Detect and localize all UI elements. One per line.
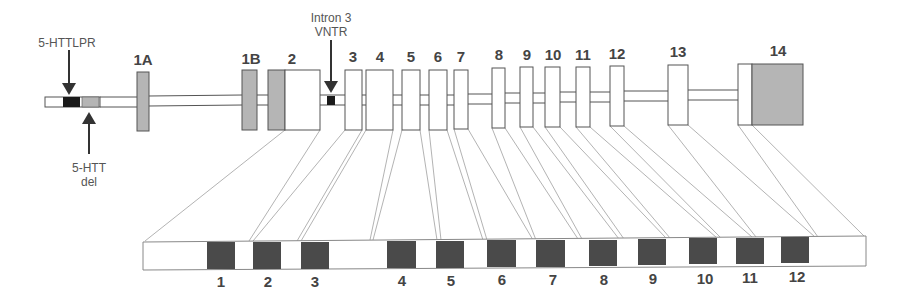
svg-text:9: 9 — [649, 270, 657, 287]
connector-lines — [145, 125, 864, 241]
svg-text:4: 4 — [398, 272, 407, 289]
svg-text:1B: 1B — [241, 50, 260, 67]
arrow-down-icon — [62, 83, 76, 95]
svg-text:1: 1 — [217, 273, 225, 290]
svg-text:10: 10 — [545, 46, 562, 63]
svg-text:5: 5 — [407, 48, 415, 65]
cds-block-9 — [638, 239, 666, 265]
cds-block-12 — [781, 237, 809, 263]
arrow-up-icon — [82, 112, 96, 124]
cds-block-3 — [301, 242, 329, 269]
svg-text:10: 10 — [697, 270, 714, 287]
exon-14-utr — [752, 64, 803, 125]
exon-7 — [454, 70, 468, 129]
svg-text:6: 6 — [434, 48, 442, 65]
svg-text:12: 12 — [789, 268, 806, 285]
svg-text:8: 8 — [495, 46, 503, 63]
exon-labels: 1A 1B 2 3 4 5 6 7 8 9 10 11 12 13 14 — [133, 42, 787, 68]
5-httlpr-label: 5-HTTLPR — [38, 36, 96, 50]
cds-block-7 — [536, 240, 565, 267]
svg-text:5: 5 — [447, 272, 455, 289]
cds-block-8 — [589, 240, 617, 266]
arrow-down-icon — [324, 81, 338, 93]
svg-text:14: 14 — [770, 42, 787, 59]
svg-text:4: 4 — [376, 48, 385, 65]
vntr-label-2: VNTR — [315, 25, 348, 39]
exon-3 — [345, 70, 362, 130]
5-htt-del-label-2: del — [81, 175, 97, 189]
5-htt-del-label: 5-HTT — [72, 161, 107, 175]
exon-11 — [576, 67, 590, 127]
exon-2-utr — [268, 70, 285, 130]
svg-text:8: 8 — [600, 271, 608, 288]
svg-text:11: 11 — [742, 269, 758, 286]
exon-1a — [137, 72, 149, 131]
intron3-vntr-marker — [327, 96, 335, 105]
svg-text:2: 2 — [288, 50, 296, 67]
svg-text:3: 3 — [311, 273, 319, 290]
cds-labels: 1 2 3 4 5 6 7 8 9 10 11 12 — [217, 268, 806, 290]
exon-4 — [366, 70, 393, 130]
exon-1b — [242, 70, 257, 130]
svg-text:7: 7 — [549, 271, 557, 288]
svg-text:6: 6 — [498, 271, 506, 288]
exon-2-cds — [285, 70, 320, 130]
svg-text:7: 7 — [457, 48, 465, 65]
promoter-region — [45, 97, 100, 107]
svg-text:9: 9 — [523, 46, 531, 63]
svg-text:12: 12 — [609, 45, 626, 62]
exon-13 — [668, 65, 688, 125]
cds-block-10 — [689, 238, 717, 264]
5-htt-del-marker — [82, 97, 99, 107]
svg-text:2: 2 — [264, 273, 272, 290]
svg-text:1A: 1A — [133, 51, 152, 68]
5-httlpr-marker — [63, 97, 80, 107]
vntr-label: Intron 3 — [311, 11, 352, 25]
svg-text:3: 3 — [349, 48, 357, 65]
exon-5 — [402, 70, 420, 130]
cds-block-1 — [207, 242, 235, 269]
exon-10 — [545, 67, 560, 127]
svg-text:11: 11 — [575, 46, 591, 63]
exon-12 — [610, 66, 624, 126]
cds-block-11 — [736, 238, 764, 264]
cds-block-5 — [436, 241, 464, 268]
cds-block-2 — [253, 242, 281, 269]
gene-exons — [137, 64, 803, 131]
mrna-bar — [143, 236, 866, 270]
exon-14-cds — [738, 64, 752, 125]
svg-text:13: 13 — [670, 43, 687, 60]
cds-block-4 — [387, 241, 416, 268]
exon-8 — [492, 68, 505, 128]
cds-block-6 — [487, 240, 516, 267]
gene-diagram: 1A 1B 2 3 4 5 6 7 8 9 10 11 12 13 14 5-H… — [0, 0, 911, 305]
exon-6 — [429, 70, 447, 130]
exon-9 — [520, 67, 533, 127]
